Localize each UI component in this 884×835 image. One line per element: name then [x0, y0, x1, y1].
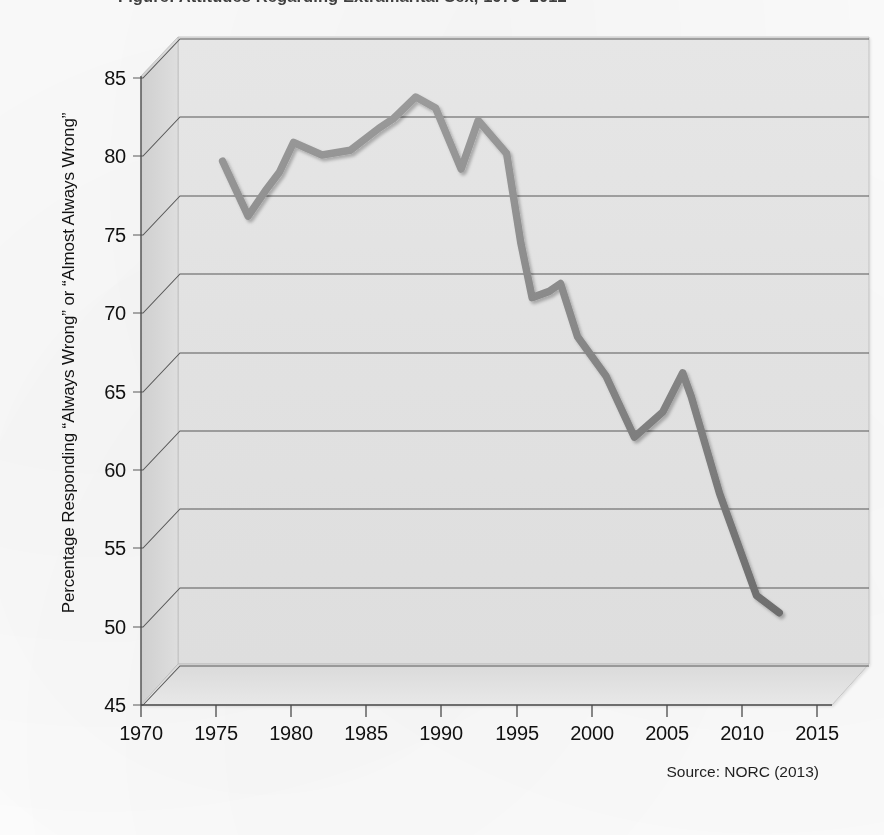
panel-left-wall — [141, 37, 178, 705]
x-tick-label-2005: 2005 — [645, 722, 689, 745]
chart-plot-area — [0, 0, 884, 835]
x-tick-label-1995: 1995 — [495, 722, 539, 745]
y-tick-label-80: 80 — [68, 145, 126, 168]
y-tick-label-55: 55 — [68, 537, 126, 560]
x-tick-label-1990: 1990 — [419, 722, 463, 745]
plot-3d-panel — [141, 37, 869, 705]
x-tick-label-1985: 1985 — [344, 722, 388, 745]
source-note: Source: NORC (2013) — [667, 763, 819, 781]
y-tick-label-45: 45 — [68, 694, 126, 717]
x-tick-label-1980: 1980 — [269, 722, 313, 745]
y-tick-label-60: 60 — [68, 459, 126, 482]
chart-page: Figure: Attitudes Regarding Extramarital… — [0, 0, 884, 835]
x-tick-label-2010: 2010 — [720, 722, 764, 745]
x-tick-label-2015: 2015 — [795, 722, 839, 745]
panel-floor — [141, 664, 869, 705]
y-tick-label-85: 85 — [68, 67, 126, 90]
panel-back-wall — [178, 37, 869, 664]
x-tick-label-2000: 2000 — [570, 722, 614, 745]
x-tick-label-1970: 1970 — [119, 722, 163, 745]
y-tick-label-50: 50 — [68, 616, 126, 639]
y-tick-label-65: 65 — [68, 381, 126, 404]
x-tick-label-1975: 1975 — [194, 722, 238, 745]
x-axis-ticks — [141, 705, 817, 717]
y-tick-label-70: 70 — [68, 302, 126, 325]
y-tick-label-75: 75 — [68, 224, 126, 247]
